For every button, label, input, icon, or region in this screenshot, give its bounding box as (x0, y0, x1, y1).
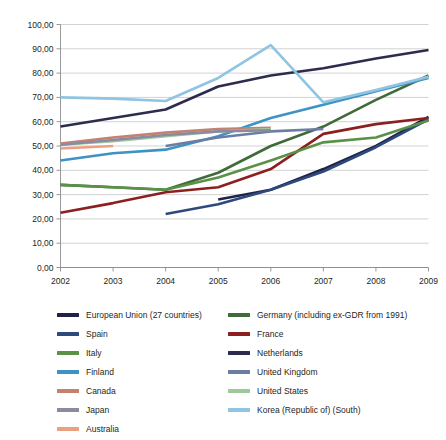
series-line (61, 146, 114, 148)
legend-item-label: Germany (including ex-GDR from 1991) (257, 310, 407, 320)
legend-column-right: Germany (including ex-GDR from 1991)Fran… (228, 305, 443, 419)
y-tick-label: 40,00 (32, 165, 54, 175)
legend-item[interactable]: Spain (57, 324, 227, 343)
legend-item-label: Italy (86, 348, 102, 358)
x-tick-label: 2002 (51, 276, 70, 286)
series-line (61, 118, 429, 213)
legend-item-label: Canada (86, 386, 116, 396)
legend-item[interactable]: Australia (57, 419, 227, 438)
legend-item-label: Japan (86, 405, 109, 415)
legend-item-label: Spain (86, 329, 108, 339)
y-tick-label: 30,00 (32, 190, 54, 200)
legend-item[interactable]: United Kingdom (228, 362, 443, 381)
plot-area: 0,0010,0020,0030,0040,0050,0060,0070,008… (0, 0, 446, 300)
legend-item[interactable]: Korea (Republic of) (South) (228, 400, 443, 419)
x-tick-label: 2008 (366, 276, 385, 286)
data-series (61, 45, 429, 214)
legend-item-label: European Union (27 countries) (86, 310, 202, 320)
y-tick-label: 100,00 (28, 20, 54, 30)
legend-item-label: France (257, 329, 283, 339)
legend-color-swatch (57, 351, 79, 355)
legend-item-label: United States (257, 386, 308, 396)
legend-color-swatch (57, 332, 79, 336)
legend-item[interactable]: European Union (27 countries) (57, 305, 227, 324)
legend-color-swatch (57, 389, 79, 393)
series-line (61, 45, 429, 102)
legend-item[interactable]: United States (228, 381, 443, 400)
legend-item-label: Australia (86, 424, 119, 434)
y-tick-label: 70,00 (32, 92, 54, 102)
y-tick-label: 80,00 (32, 68, 54, 78)
legend-column-left: European Union (27 countries)SpainItalyF… (57, 305, 227, 438)
y-tick-label: 50,00 (32, 141, 54, 151)
legend-item[interactable]: Germany (including ex-GDR from 1991) (228, 305, 443, 324)
legend-color-swatch (57, 313, 79, 317)
x-tick-label: 2004 (156, 276, 175, 286)
y-tick-label: 0,00 (37, 263, 54, 273)
legend-color-swatch (57, 370, 79, 374)
x-axis-ticks: 20022003200420052006200720082009 (51, 268, 438, 286)
legend-item-label: Korea (Republic of) (South) (257, 405, 360, 415)
legend-color-swatch (228, 408, 250, 412)
y-tick-label: 20,00 (32, 214, 54, 224)
x-tick-label: 2005 (209, 276, 228, 286)
line-chart: 0,0010,0020,0030,0040,0050,0060,0070,008… (0, 0, 446, 440)
legend-color-swatch (228, 332, 250, 336)
legend-color-swatch (228, 389, 250, 393)
y-axis-ticks: 0,0010,0020,0030,0040,0050,0060,0070,008… (28, 20, 61, 273)
legend-color-swatch (57, 427, 79, 431)
legend-color-swatch (57, 408, 79, 412)
x-tick-label: 2009 (419, 276, 438, 286)
y-tick-label: 90,00 (32, 44, 54, 54)
legend-item[interactable]: Finland (57, 362, 227, 381)
legend-color-swatch (228, 370, 250, 374)
y-tick-label: 60,00 (32, 117, 54, 127)
y-tick-label: 10,00 (32, 238, 54, 248)
legend-item-label: Netherlands (257, 348, 303, 358)
plot-svg: 0,0010,0020,0030,0040,0050,0060,0070,008… (0, 0, 446, 300)
legend-item[interactable]: Canada (57, 381, 227, 400)
legend-item[interactable]: Netherlands (228, 343, 443, 362)
legend-item[interactable]: Japan (57, 400, 227, 419)
x-tick-label: 2007 (314, 276, 333, 286)
legend-item-label: United Kingdom (257, 367, 317, 377)
legend-item-label: Finland (86, 367, 114, 377)
x-tick-label: 2003 (104, 276, 123, 286)
legend-item[interactable]: Italy (57, 343, 227, 362)
legend-color-swatch (228, 351, 250, 355)
legend-item[interactable]: France (228, 324, 443, 343)
x-tick-label: 2006 (261, 276, 280, 286)
chart-legend: European Union (27 countries)SpainItalyF… (0, 305, 446, 440)
legend-color-swatch (228, 313, 250, 317)
